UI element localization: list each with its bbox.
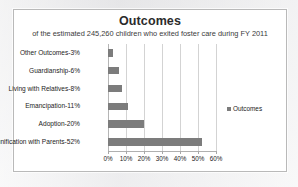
- legend-label: Outcomes: [233, 105, 262, 113]
- bar-row: [108, 80, 216, 98]
- bar-row: [108, 62, 216, 80]
- chart-subtitle: of the estimated 245,260 children who ex…: [14, 29, 286, 38]
- category-label: Other Outcomes-3%: [20, 49, 80, 57]
- bar[interactable]: [108, 120, 144, 128]
- tick-mark: [108, 151, 109, 154]
- bar[interactable]: [108, 85, 122, 93]
- tick-mark: [162, 151, 163, 154]
- gridline: [216, 44, 217, 151]
- bar[interactable]: [108, 67, 119, 75]
- tick-mark: [180, 151, 181, 154]
- bar-row: [108, 133, 216, 151]
- page-background: Outcomes of the estimated 245,260 childr…: [0, 0, 298, 187]
- tick-mark: [198, 151, 199, 154]
- bar-row: [108, 98, 216, 116]
- bar[interactable]: [108, 138, 202, 146]
- bar-row: [108, 44, 216, 62]
- chart-title: Outcomes: [14, 14, 286, 28]
- tick-mark: [126, 151, 127, 154]
- category-label: Guardianship-6%: [29, 67, 80, 75]
- tick-mark: [144, 151, 145, 154]
- legend-swatch-icon: [227, 107, 231, 111]
- bar[interactable]: [108, 103, 128, 111]
- category-label: Living with Relatives-8%: [9, 85, 80, 93]
- category-label: Reunification with Parents-52%: [0, 138, 80, 146]
- plot-area: [108, 44, 216, 151]
- chart-legend: Outcomes: [227, 105, 262, 113]
- bar[interactable]: [108, 49, 113, 57]
- bar-row: [108, 115, 216, 133]
- tick-label: 60%: [204, 155, 228, 163]
- category-label: Emancipation-11%: [25, 102, 80, 110]
- category-label: Adoption-20%: [39, 120, 80, 128]
- chart-card: Outcomes of the estimated 245,260 childr…: [13, 9, 287, 172]
- tick-mark: [216, 151, 217, 154]
